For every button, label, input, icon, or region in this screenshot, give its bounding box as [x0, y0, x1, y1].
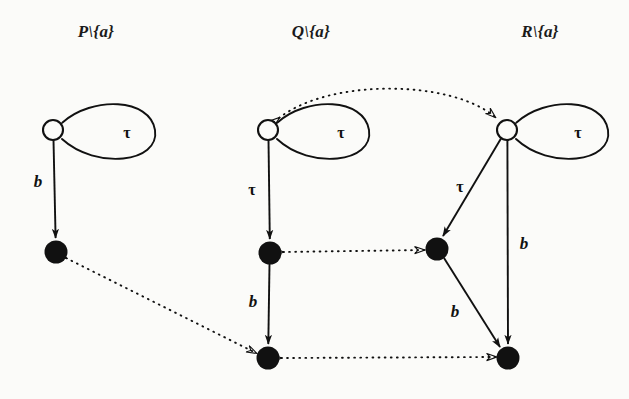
edge-label-r0-r2: b — [520, 234, 529, 254]
state-node-r0[interactable] — [497, 120, 517, 140]
relation-p1-q2[interactable] — [66, 258, 256, 353]
edge-r0-r2[interactable] — [507, 140, 508, 344]
state-node-q1[interactable] — [259, 242, 282, 265]
self-loop-p0[interactable] — [62, 104, 155, 159]
state-node-q0[interactable] — [258, 120, 278, 140]
edge-label-p0-loop: τ — [123, 124, 130, 142]
relation-q0-r0[interactable] — [279, 89, 495, 118]
self-loop-q0[interactable] — [277, 104, 369, 159]
edge-label-q1-q2: b — [249, 292, 258, 312]
relation-q1-r1[interactable] — [283, 250, 424, 252]
edge-label-r0-r1: τ — [456, 178, 463, 196]
self-loop-edges — [62, 104, 608, 159]
state-node-p1[interactable] — [45, 241, 68, 264]
edge-label-p0-p1: b — [34, 172, 43, 192]
state-node-r2[interactable] — [497, 347, 520, 370]
state-node-q2[interactable] — [257, 347, 280, 370]
self-loop-r0[interactable] — [516, 104, 608, 159]
diagram-canvas: P\{a} Q\{a} R\{a} τ b τ τ b τ τ b b — [0, 0, 629, 399]
column-title-q: Q\{a} — [292, 22, 330, 42]
edge-q1-q2[interactable] — [268, 264, 269, 344]
edge-q0-q1[interactable] — [269, 140, 270, 239]
column-title-r: R\{a} — [521, 22, 558, 42]
edge-p0-p1[interactable] — [54, 140, 56, 238]
edge-label-q0-q1: τ — [248, 181, 255, 199]
state-node-p0[interactable] — [43, 120, 63, 140]
edge-label-q0-loop: τ — [337, 124, 344, 142]
diagram-svg — [0, 0, 629, 399]
edge-label-r1-r2: b — [451, 302, 460, 322]
edge-r0-r1[interactable] — [443, 139, 501, 237]
column-title-p: P\{a} — [78, 22, 114, 42]
state-node-r1[interactable] — [426, 238, 449, 261]
edge-label-r0-loop: τ — [574, 124, 581, 142]
state-nodes — [43, 120, 520, 370]
relation-q2-r2[interactable] — [281, 357, 496, 358]
